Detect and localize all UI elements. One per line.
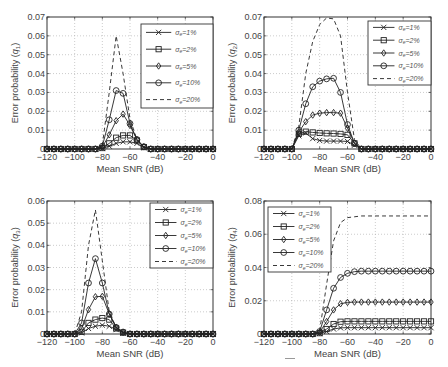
footer-mark <box>285 358 295 359</box>
chart-panel-q3: −120−100−80−60−40−20000.010.020.030.040.… <box>10 196 216 359</box>
x-tick-label: −60 <box>122 337 137 347</box>
y-tick-label: 0.07 <box>27 12 45 22</box>
legend: σe=1%σe=2%σe=5%σe=10%σe=20% <box>368 21 431 85</box>
x-tick-label: −60 <box>122 152 137 162</box>
y-tick-label: 0.02 <box>244 106 262 116</box>
y-axis-label: Error probability (q4) <box>227 227 238 307</box>
chart-panel-q2: −120−100−80−60−40−20000.010.020.030.040.… <box>227 12 434 174</box>
series-3 <box>262 109 433 152</box>
y-tick-label: 0.02 <box>244 296 262 306</box>
x-tick-label: −40 <box>368 152 383 162</box>
y-tick-label: 0.05 <box>244 50 262 60</box>
y-tick-label: 0.01 <box>27 307 45 317</box>
x-tick-label: −100 <box>65 337 85 347</box>
y-axis-label: Error probability (q2) <box>227 43 238 123</box>
x-tick-label: −80 <box>312 337 327 347</box>
x-tick-label: −80 <box>95 152 110 162</box>
chart-panel-q1: −120−100−80−60−40−20000.010.020.030.040.… <box>10 12 216 174</box>
legend: σe=1%σe=2%σe=5%σe=10%σe=20% <box>141 24 213 108</box>
y-tick-label: 0.05 <box>27 50 45 60</box>
legend: σe=1%σe=2%σe=5%σe=10%σe=20% <box>150 203 213 268</box>
x-tick-label: −40 <box>368 337 383 347</box>
x-tick-label: 0 <box>210 337 215 347</box>
y-tick-label: 0.02 <box>27 285 45 295</box>
y-tick-label: 0.06 <box>244 229 262 239</box>
y-tick-label: 0.03 <box>27 87 45 97</box>
x-tick-label: 0 <box>428 152 433 162</box>
x-tick-label: −60 <box>340 337 355 347</box>
x-tick-label: −80 <box>312 152 327 162</box>
x-tick-label: −80 <box>95 337 110 347</box>
x-marker-icon <box>303 130 308 135</box>
x-tick-label: −20 <box>178 337 193 347</box>
chart-panel-q4: −120−100−80−60−40−20000.020.040.060.08Me… <box>227 196 434 359</box>
x-tick-label: −40 <box>150 337 165 347</box>
y-tick-label: 0.08 <box>244 196 262 206</box>
y-tick-label: 0.03 <box>27 263 45 273</box>
x-marker-icon <box>86 326 91 331</box>
y-tick-label: 0.04 <box>244 69 262 79</box>
y-tick-label: 0.02 <box>27 106 45 116</box>
series-line <box>47 259 213 334</box>
y-tick-label: 0.01 <box>244 125 262 135</box>
y-tick-label: 0.04 <box>27 240 45 250</box>
x-tick-label: −100 <box>65 152 85 162</box>
y-tick-label: 0.06 <box>27 196 45 206</box>
x-axis-label: Mean SNR (dB) <box>314 163 381 174</box>
x-marker-icon <box>310 136 315 141</box>
y-tick-label: 0.05 <box>27 218 45 228</box>
y-tick-label: 0.04 <box>27 69 45 79</box>
y-tick-label: 0.06 <box>244 31 262 41</box>
x-axis-label: Mean SNR (dB) <box>96 348 163 359</box>
x-tick-label: 0 <box>210 152 215 162</box>
y-tick-label: 0.04 <box>244 263 262 273</box>
x-tick-label: −20 <box>396 337 411 347</box>
figure-canvas: −120−100−80−60−40−20000.010.020.030.040.… <box>0 0 448 367</box>
y-tick-label: 0.06 <box>27 31 45 41</box>
x-tick-label: 0 <box>428 337 433 347</box>
y-tick-label: 0.07 <box>244 12 262 22</box>
x-axis-label: Mean SNR (dB) <box>314 348 381 359</box>
x-axis-label: Mean SNR (dB) <box>96 163 163 174</box>
x-tick-label: −60 <box>340 152 355 162</box>
y-axis-label: Error probability (q3) <box>10 227 21 307</box>
x-tick-label: −20 <box>396 152 411 162</box>
x-tick-label: −100 <box>282 337 302 347</box>
y-tick-label: 0.01 <box>27 125 45 135</box>
x-tick-label: −40 <box>150 152 165 162</box>
y-axis-label: Error probability (q1) <box>10 43 21 123</box>
legend: σe=1%σe=2%σe=5%σe=10%σe=20% <box>268 207 331 272</box>
x-tick-label: −20 <box>178 152 193 162</box>
y-tick-label: 0.03 <box>244 87 262 97</box>
x-tick-label: −100 <box>282 152 302 162</box>
